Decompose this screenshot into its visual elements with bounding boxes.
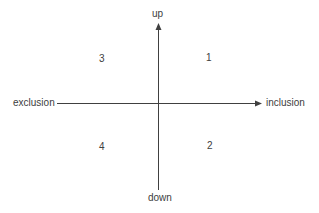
- axis-label-exclusion: exclusion: [13, 97, 55, 109]
- up-arrowhead-icon: [156, 23, 162, 30]
- axis-label-inclusion: inclusion: [266, 97, 305, 109]
- quadrant-label-2: 2: [207, 140, 213, 152]
- axis-label-up: up: [152, 8, 163, 20]
- quadrant-diagram: up down exclusion inclusion 3 1 4 2: [0, 0, 319, 213]
- quadrant-label-3: 3: [99, 53, 105, 65]
- quadrant-label-1: 1: [206, 52, 212, 64]
- right-arrowhead-icon: [255, 101, 262, 107]
- quadrant-label-4: 4: [99, 141, 105, 153]
- axis-label-down: down: [148, 192, 172, 204]
